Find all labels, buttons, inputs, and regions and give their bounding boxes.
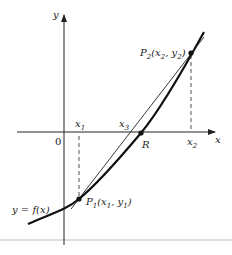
origin-label: 0 xyxy=(55,136,61,147)
point-p2 xyxy=(188,50,193,55)
secant-line xyxy=(71,37,204,209)
y-axis-label: y xyxy=(52,9,59,20)
p2-label: P2(x2, y2) xyxy=(139,47,186,61)
curve-label: y = f(x) xyxy=(11,204,50,215)
x1-label: x1 xyxy=(75,118,85,132)
point-r xyxy=(138,130,143,135)
r-label: R xyxy=(141,139,150,150)
x3-label: x3 xyxy=(119,118,130,132)
point-p1 xyxy=(76,196,81,201)
x-axis-label: x xyxy=(215,134,221,145)
x2-label: x2 xyxy=(187,136,198,150)
secant-method-diagram: y x 0 x1 x3 x2 R P2(x2, y2) P1(x1, y1) y… xyxy=(0,0,232,255)
p1-label: P1(x1, y1) xyxy=(85,196,132,210)
